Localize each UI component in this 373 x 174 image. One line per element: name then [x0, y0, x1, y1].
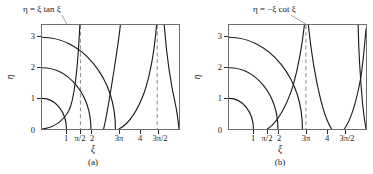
- yaxis-name-b: η: [192, 75, 202, 80]
- ytick-b-1: [224, 98, 228, 99]
- equation-label-a: η = ξ tan ξ: [23, 4, 61, 14]
- ytick-a-1: [37, 98, 41, 99]
- xaxis-name-a: ξ: [0, 144, 186, 154]
- arc-radius-3: [229, 37, 302, 129]
- arc-radius-2: [42, 68, 91, 129]
- xlabel-b-3: 3π: [302, 133, 311, 143]
- arc-radius-1: [42, 98, 66, 129]
- xlabel-b-1: π/2: [262, 133, 273, 143]
- xlabel-a-3: 3π: [115, 133, 124, 143]
- tan-branch-1: [119, 25, 157, 129]
- plot-area-a: [41, 24, 180, 130]
- xlabel-a-5: 3π/2: [152, 133, 167, 143]
- xlabel-a-0: 1: [64, 133, 68, 143]
- ylabel-b-1: 1: [209, 94, 222, 103]
- xaxis-name-b: ξ: [187, 144, 373, 154]
- xlabel-a-1: π/2: [75, 133, 86, 143]
- arc-radius-1: [229, 98, 253, 129]
- ylabel-a-3: 3: [22, 32, 35, 41]
- caption-a: (a): [0, 157, 186, 167]
- ytick-a-3: [37, 36, 41, 37]
- xlabel-b-0: 1: [251, 133, 255, 143]
- ylabel-a-0: 0: [22, 126, 35, 135]
- xlabel-a-4: 4: [138, 133, 142, 143]
- tan-branch-1b: [104, 25, 121, 129]
- ytick-b-2: [224, 67, 228, 68]
- ylabel-a-1: 1: [22, 94, 35, 103]
- xlabel-b-4: 4: [325, 133, 329, 143]
- ytick-a-2: [37, 67, 41, 68]
- ylabel-a-2: 2: [22, 63, 35, 72]
- ytick-b-3: [224, 36, 228, 37]
- caption-b: (b): [187, 157, 373, 167]
- ylabel-b-3: 3: [209, 32, 222, 41]
- ylabel-b-0: 0: [209, 126, 222, 135]
- xlabel-b-2: 2: [277, 133, 281, 143]
- curves-a: [42, 25, 179, 129]
- panel-a: η = ξ tan ξ: [0, 0, 186, 174]
- cot-branch-0b: [308, 25, 331, 129]
- xlabel-a-2: 2: [90, 133, 94, 143]
- curves-b: [229, 25, 366, 129]
- tan-branch-2: [164, 25, 179, 129]
- panel-b: η = −ξ cot ξ: [187, 0, 373, 174]
- equation-label-b: η = −ξ cot ξ: [253, 4, 296, 14]
- arc-radius-2: [229, 68, 278, 129]
- cot-branch-0: [267, 25, 304, 129]
- xlabel-b-5: 3π/2: [339, 133, 354, 143]
- figure-root: η = ξ tan ξ: [0, 0, 373, 174]
- cot-branch-1: [344, 29, 366, 129]
- ylabel-b-2: 2: [209, 63, 222, 72]
- plot-area-b: [228, 24, 367, 130]
- yaxis-name-a: η: [5, 75, 15, 80]
